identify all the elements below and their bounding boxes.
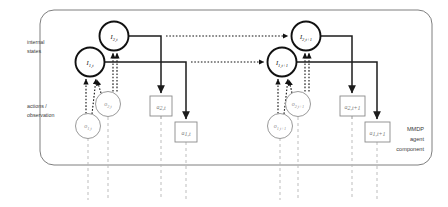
action-node: a1,t+1 [365, 122, 390, 142]
action-label-sub: 1,t [184, 131, 191, 137]
svg-text:a2,t+1: a2,t+1 [344, 104, 360, 112]
internal-states-label-line1: internal [27, 39, 44, 45]
action-node: a1,t [175, 122, 197, 142]
action-label-sub: 2,t+1 [347, 105, 360, 111]
internal-state-node: I1,t [76, 48, 105, 77]
actions-side-label: actions / observation [27, 103, 54, 118]
obs-action-dashed [161, 116, 352, 122]
time-continuation-lines [88, 116, 377, 200]
observation-node: o2,t [96, 92, 121, 117]
internal-state-node: I2,t+1 [292, 22, 321, 51]
actions-label-line2: observation [27, 112, 54, 118]
corner-label-line1: MMDP [407, 126, 424, 132]
observation-node: o1,t [76, 114, 101, 139]
mmdp-agent-component-label: MMDP agent component [396, 126, 424, 152]
observation-node: o1,t+1 [268, 114, 293, 139]
corner-label-line2: agent [410, 136, 424, 142]
internal-state-node: I2,t [100, 22, 129, 51]
svg-text:a1,t+1: a1,t+1 [369, 130, 385, 138]
action-node: a2,t+1 [340, 96, 365, 116]
internal-state-nodes: I1,t I2,t I1,t+1 I2,t+1 [76, 22, 321, 77]
observation-node: o2,t+1 [286, 92, 311, 117]
action-node: a2,t [150, 96, 172, 116]
internal-state-node: I1,t+1 [268, 48, 297, 77]
action-label-sub: 2,t [159, 105, 166, 111]
actions-label-line1: actions / [27, 103, 47, 109]
action-label-sub: 1,t+1 [372, 131, 385, 137]
corner-label-line3: component [396, 146, 424, 152]
mmdp-agent-component-diagram: a2,t a1,t a2,t+1 a1,t+1 o2,t [0, 0, 448, 207]
figure-canvas: a2,t a1,t a2,t+1 a1,t+1 o2,t [0, 0, 448, 207]
internal-states-label-line2: states [27, 48, 41, 54]
internal-states-side-label: internal states [27, 39, 44, 54]
